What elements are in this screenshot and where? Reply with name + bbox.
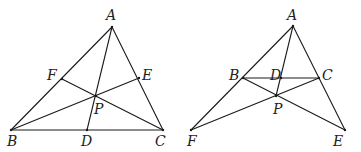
label-E: E [141,67,152,83]
segment-CF [191,78,319,130]
label-P: P [272,101,283,117]
point-A [111,26,113,28]
point-P [95,95,97,97]
point-F [190,129,192,131]
geometry-diagram: ABCDEFPABCDEFP [0,0,361,152]
point-B [10,129,12,131]
point-A [292,25,294,27]
label-D: D [269,67,281,83]
label-A: A [104,7,116,23]
point-P [275,95,277,97]
point-C [162,129,164,131]
label-C: C [155,133,166,149]
point-B [242,77,244,79]
label-F: F [186,133,198,149]
label-D: D [80,133,92,149]
label-P: P [93,101,104,117]
point-D [86,129,88,131]
segment-CF [62,79,163,130]
figure-right: ABCDEFP [186,7,346,149]
point-E [138,77,140,79]
label-E: E [332,133,343,149]
label-A: A [285,7,297,23]
label-B: B [228,67,239,83]
label-C: C [322,67,333,83]
figure-left: ABCDEFP [6,7,166,149]
triangle-figures: ABCDEFPABCDEFP [0,0,361,152]
segment-AP [276,26,293,96]
point-C [318,77,320,79]
label-B: B [6,133,17,149]
point-E [344,129,346,131]
point-F [61,78,63,80]
segment-BE [243,78,345,130]
label-F: F [46,67,58,83]
